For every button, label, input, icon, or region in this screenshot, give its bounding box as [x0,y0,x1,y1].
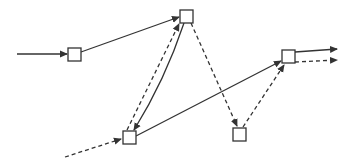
node-a-box [68,48,81,61]
edge-E-out-solid-solid-arrow [295,49,337,52]
edge-B-C-solid-arrow [134,23,184,130]
node-c-box [123,131,136,144]
edge-D-E-dashed-arrow [243,65,284,127]
edge-in-dashed-dashed-arrow [65,139,121,157]
edge-C-B-dashed-arrow [127,24,179,130]
diagram-canvas [0,0,350,168]
node-e-box [282,50,295,63]
edge-E-out-dashed-dashed-arrow [295,60,337,62]
edge-B-D-dashed-arrow [191,23,237,126]
edge-C-E-solid-arrow [136,61,281,136]
edge-A-B-solid-arrow [81,17,179,52]
node-d-box [233,128,246,141]
node-b-box [180,10,193,23]
flow-diagram [0,0,350,168]
edges-layer [17,17,337,157]
